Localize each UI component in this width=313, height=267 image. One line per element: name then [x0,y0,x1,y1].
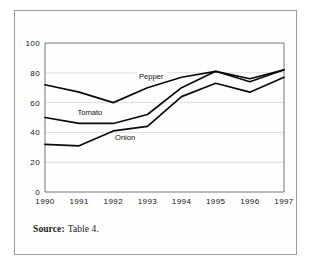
y-tick-label: 80 [30,69,40,78]
x-tick-label: 1991 [69,197,89,206]
x-tick-label: 1995 [206,197,226,206]
x-tick-label: 1990 [35,197,55,206]
source-note: Source:Table 4. [33,224,99,234]
y-axis-tick-labels: 020406080100 [25,39,40,197]
series-label-onion: Onion [115,133,135,142]
x-tick-label: 1994 [172,197,192,206]
source-value: Table 4. [65,224,99,234]
y-tick-label: 40 [30,128,40,137]
axes-group [45,43,284,192]
line-chart: 020406080100 199019911992199319941995199… [15,11,298,221]
y-tick-label: 60 [30,99,40,108]
gridlines-group [45,73,284,162]
x-tick-label: 1992 [104,197,124,206]
x-axis-tick-labels: 19901991199219931994199519961997 [35,197,294,206]
y-tick-label: 0 [35,188,40,197]
series-label-tomato: Tomato [77,108,102,117]
x-tick-label: 1993 [138,197,158,206]
series-label-pepper: Pepper [139,72,164,81]
y-tick-label: 20 [30,158,40,167]
figure-frame: 020406080100 199019911992199319941995199… [14,10,297,255]
y-tick-label: 100 [25,39,40,48]
chart-plot-area: 020406080100 199019911992199319941995199… [15,11,298,221]
series-annotations-group: PepperTomatoOnion [75,72,166,142]
source-label: Source: [33,224,65,234]
x-tick-label: 1997 [274,197,294,206]
x-tick-label: 1996 [240,197,260,206]
